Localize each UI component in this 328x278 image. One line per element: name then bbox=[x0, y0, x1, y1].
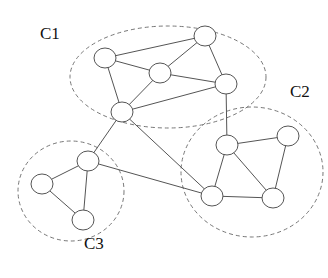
graph-node-e bbox=[111, 102, 133, 122]
cluster-label-c3: C3 bbox=[84, 234, 104, 254]
graph-node-d bbox=[215, 74, 237, 94]
edge-e-d bbox=[122, 84, 226, 112]
cluster-boundary-c2 bbox=[181, 107, 323, 237]
graph-node-i bbox=[262, 188, 284, 208]
cluster-label-c2: C2 bbox=[290, 82, 310, 102]
community-graph-diagram: C1C2C3 bbox=[0, 0, 328, 278]
graph-node-k bbox=[31, 174, 53, 194]
edge-a-b bbox=[105, 36, 205, 58]
graph-node-l bbox=[72, 210, 94, 230]
graph-node-f bbox=[216, 135, 238, 155]
graph-node-h bbox=[201, 186, 223, 206]
graph-node-a bbox=[94, 48, 116, 68]
graph-node-j bbox=[77, 151, 99, 171]
graph-node-g bbox=[277, 126, 299, 146]
cluster-label-c1: C1 bbox=[40, 24, 60, 44]
graph-node-c bbox=[149, 63, 171, 83]
graph-node-b bbox=[194, 26, 216, 46]
